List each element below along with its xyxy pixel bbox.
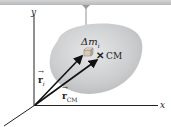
x-axis-label: x (160, 101, 165, 110)
r-cm-text: →r (62, 91, 67, 101)
r-cm-symbol: r (62, 91, 67, 101)
diagram-canvas (0, 0, 171, 127)
r-cm-label: →rCM (62, 92, 77, 103)
mass-subscript: i (98, 42, 100, 49)
r-i-text: →r (38, 75, 43, 85)
cm-marker-icon: ✕ (96, 51, 104, 61)
mass-element-cube (84, 48, 93, 56)
y-axis-label: y (31, 8, 36, 17)
vector-arrow-icon: → (62, 85, 68, 92)
cm-label: CM (106, 52, 122, 61)
r-cm-subscript: CM (67, 96, 78, 103)
r-i-label: →ri (38, 76, 45, 87)
r-i-subscript: i (43, 80, 45, 87)
r-i-symbol: r (38, 75, 43, 85)
z-axis (4, 105, 35, 126)
ceiling (0, 0, 171, 5)
delta-m-text: Δm (81, 36, 98, 47)
mass-element-label: Δmi (81, 37, 100, 49)
center-of-mass-diagram: y x Δmi ✕ CM →ri →rCM (0, 0, 171, 127)
vector-arrow-icon: → (38, 69, 44, 76)
